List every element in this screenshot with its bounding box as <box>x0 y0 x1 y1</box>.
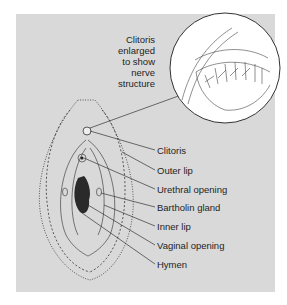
label-urethral-opening: Urethral opening <box>157 184 227 195</box>
callout-line: structure <box>105 78 155 89</box>
label-hymen: Hymen <box>157 259 187 270</box>
vaginal-opening-drawing <box>74 176 90 213</box>
callout-line: to show <box>105 56 155 67</box>
callout-line: enlarged <box>105 45 155 56</box>
label-outer-lip: Outer lip <box>157 165 193 176</box>
callout-line: Clitoris <box>105 34 155 45</box>
label-bartholin-gland: Bartholin gland <box>157 202 220 213</box>
callout-label: Clitoris enlarged to show nerve structur… <box>105 34 155 89</box>
label-inner-lip: Inner lip <box>157 221 191 232</box>
magnified-inset <box>170 13 280 123</box>
label-clitoris: Clitoris <box>157 145 186 156</box>
urethral-opening-drawing <box>80 156 83 159</box>
label-vaginal-opening: Vaginal opening <box>157 240 224 251</box>
leader-lines <box>82 90 195 264</box>
callout-line: nerve <box>105 67 155 78</box>
clitoris-drawing <box>83 127 91 135</box>
